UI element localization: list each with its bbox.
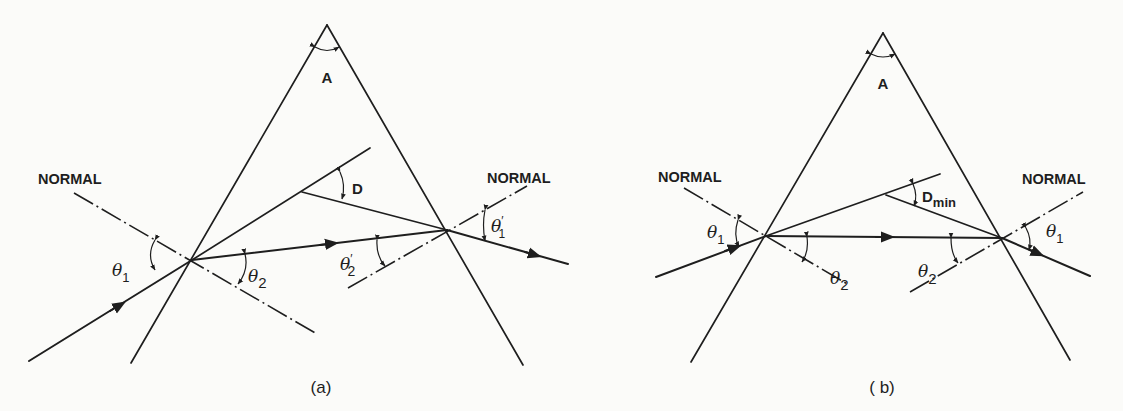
caption-a: (a): [311, 378, 332, 397]
theta2-label-a: θ2: [248, 266, 267, 291]
emergent-ray-b: [1002, 238, 1090, 276]
caption-b: ( b): [869, 378, 895, 397]
deviation-label-a: D: [352, 180, 363, 197]
incident-ray-b: [656, 236, 766, 277]
theta1-arc-b: [736, 220, 739, 247]
theta1p-arc-a: [484, 210, 486, 241]
emergent-extension-a: [302, 192, 447, 230]
theta2p-arc-a: [377, 240, 385, 266]
theta1-arc-b-right: [1026, 228, 1030, 250]
apex-label-b: A: [878, 75, 889, 92]
apex-angle-arc-b: [871, 54, 895, 57]
emergent-ray-a: [447, 230, 568, 264]
normal-a-left: [74, 193, 317, 334]
panel-b: A Dmin NORMAL NORMAL θ1 θ2 θ2 θ1 ( b): [656, 33, 1090, 397]
theta1-label-a: θ1: [112, 260, 129, 285]
prism-b-right-face: [883, 33, 1070, 360]
theta2-arc-b-right: [951, 238, 958, 263]
normal-label-a-left: NORMAL: [38, 171, 102, 187]
theta2-prime-label-a: θ′2: [340, 252, 356, 279]
normal-label-a-right: NORMAL: [487, 170, 551, 186]
deviation-min-arc-b: [913, 184, 916, 206]
theta2-arc-a: [238, 254, 246, 284]
theta2-label-b: θ2: [830, 268, 849, 293]
theta1-prime-label-a: θ′1: [491, 214, 506, 241]
theta1-label-b: θ1: [707, 222, 724, 247]
apex-label-a: A: [322, 69, 333, 86]
theta1-label-b-right: θ1: [1046, 221, 1063, 246]
apex-angle-arc-a: [315, 47, 339, 51]
prism-refraction-figure: A D NORMAL NORMAL θ1 θ2 θ′2 θ′1 (a): [0, 0, 1123, 411]
panel-a: A D NORMAL NORMAL θ1 θ2 θ′2 θ′1 (a): [29, 25, 568, 397]
deviation-min-label-b: Dmin: [922, 188, 956, 210]
theta1-arc-a: [151, 240, 156, 270]
prism-b-left-face: [691, 33, 883, 362]
normal-label-b-left: NORMAL: [658, 169, 722, 185]
deviation-arc-a: [340, 172, 344, 199]
theta2-label-b-right: θ2: [918, 261, 937, 287]
normal-label-b-right: NORMAL: [1022, 171, 1086, 187]
